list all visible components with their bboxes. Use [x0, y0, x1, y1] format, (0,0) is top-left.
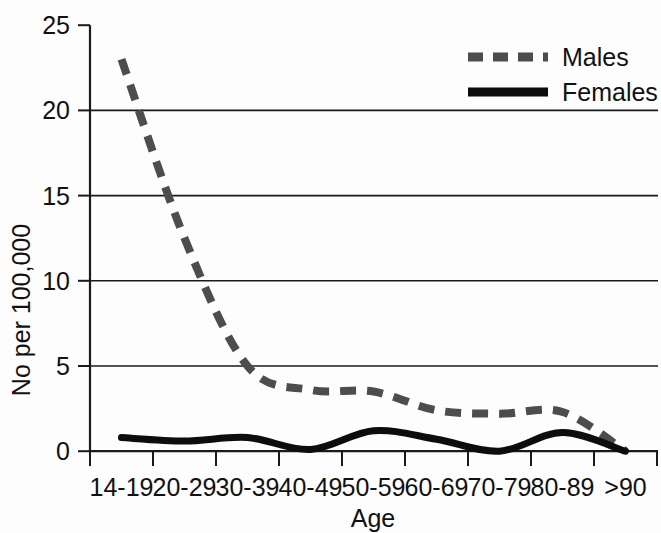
legend-label-males: Males: [562, 43, 629, 71]
x-axis-title: Age: [351, 504, 395, 532]
line-chart: 25 20 15 10 5 0 No per 100,000 14-19 20-…: [0, 0, 661, 533]
x-tick-label-20-29: 20-29: [153, 473, 217, 501]
y-tick-label-10: 10: [42, 267, 70, 295]
y-axis-title: No per 100,000: [7, 224, 35, 396]
y-tick-label-0: 0: [56, 437, 70, 465]
y-tick-label-25: 25: [42, 11, 70, 39]
x-tick-label-40-49: 40-49: [279, 473, 343, 501]
series-line-males: [122, 59, 626, 451]
x-tick-marks: [90, 451, 657, 466]
y-tick-label-15: 15: [42, 182, 70, 210]
y-tick-label-5: 5: [56, 352, 70, 380]
x-tick-labels: 14-19 20-29 30-39 40-49 50-59 60-69 70-7…: [90, 473, 647, 501]
chart-figure: 25 20 15 10 5 0 No per 100,000 14-19 20-…: [0, 0, 661, 533]
x-tick-label-50-59: 50-59: [342, 473, 406, 501]
x-tick-label-80-89: 80-89: [531, 473, 595, 501]
legend: Males Females: [468, 43, 658, 106]
y-tick-labels: 25 20 15 10 5 0: [42, 11, 70, 465]
x-tick-label-30-39: 30-39: [216, 473, 280, 501]
legend-label-females: Females: [562, 78, 658, 106]
y-tick-marks: [78, 25, 90, 451]
x-tick-label-14-19: 14-19: [90, 473, 154, 501]
x-tick-label-70-79: 70-79: [468, 473, 532, 501]
x-tick-label-60-69: 60-69: [405, 473, 469, 501]
gridlines: [90, 110, 658, 366]
y-tick-label-20: 20: [42, 96, 70, 124]
series-line-females: [122, 430, 626, 451]
x-tick-label-gt90: >90: [604, 473, 646, 501]
